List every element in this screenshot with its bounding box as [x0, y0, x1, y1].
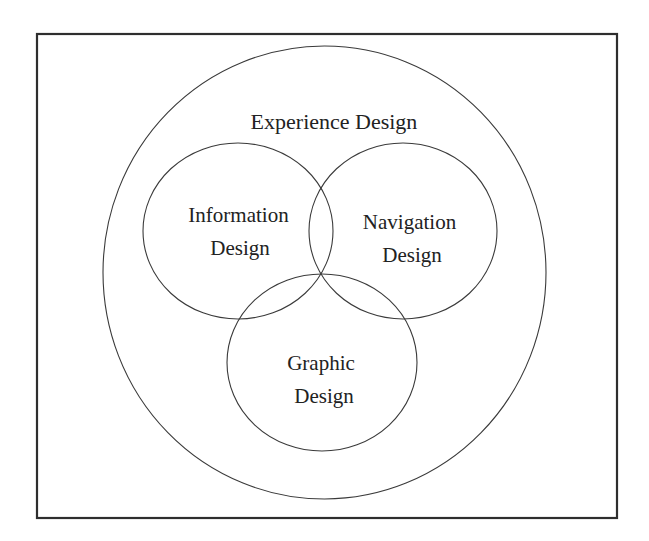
- diagram-frame: [37, 34, 617, 518]
- information-design-circle: [143, 143, 333, 319]
- venn-diagram: Experience Design Information Design Nav…: [0, 0, 649, 541]
- navigation-design-label-line1: Navigation: [363, 210, 457, 234]
- graphic-design-label-line2: Design: [294, 384, 354, 408]
- navigation-design-label-line2: Design: [382, 243, 442, 267]
- information-design-label-line2: Design: [210, 236, 270, 260]
- experience-design-label: Experience Design: [251, 109, 418, 134]
- information-design-label-line1: Information: [188, 203, 289, 227]
- graphic-design-label-line1: Graphic: [287, 351, 355, 375]
